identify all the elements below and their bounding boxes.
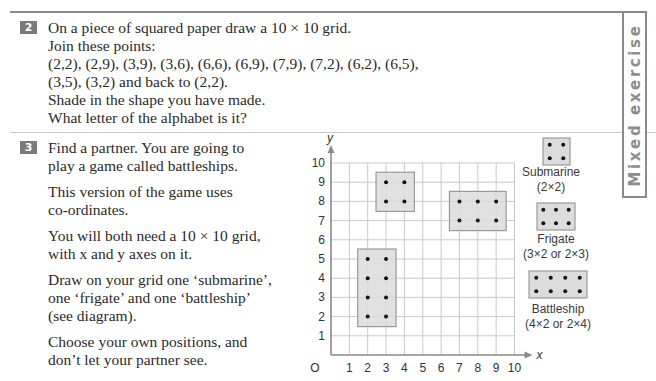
legend-point: [549, 276, 553, 280]
legend-point: [548, 143, 552, 147]
legend-point: [549, 289, 553, 293]
legend-battleship-size: (4×2 or 2×4): [513, 317, 603, 331]
legend-point: [534, 276, 538, 280]
legend-point: [554, 208, 558, 212]
legend-point: [578, 289, 582, 293]
legend-submarine-name: Submarine: [521, 165, 581, 179]
legend-point: [578, 276, 582, 280]
legend-frigate-size: (3×2 or 2×3): [511, 247, 601, 261]
legend-frigate-name: Frigate: [511, 232, 601, 246]
legend-point: [563, 276, 567, 280]
legend-point: [561, 143, 565, 147]
battleship-icon: [529, 271, 587, 298]
legend-point: [567, 221, 571, 225]
legend-point: [541, 221, 545, 225]
legend-point: [567, 208, 571, 212]
legend-point: [554, 221, 558, 225]
legend-battleship-name: Battleship: [513, 302, 603, 316]
legend-point: [548, 156, 552, 160]
frigate-icon: [537, 203, 575, 230]
submarine-icon: [543, 138, 570, 165]
legend-point: [563, 289, 567, 293]
legend-point: [541, 208, 545, 212]
legend-submarine-size: (2×2): [521, 180, 581, 194]
legend-point: [561, 156, 565, 160]
legend-point: [534, 289, 538, 293]
